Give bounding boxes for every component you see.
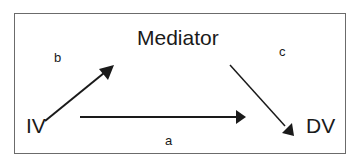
arrow-c-mediator-to-dv [230, 65, 294, 136]
arrows-layer [0, 0, 359, 165]
dv-node-label: DV [306, 115, 335, 136]
arrow-b-iv-to-mediator [45, 65, 114, 121]
iv-node-label: IV [26, 115, 46, 136]
edge-label-b: b [54, 51, 61, 64]
mediator-node-label: Mediator [137, 27, 219, 48]
arrow-a-iv-to-dv [80, 110, 246, 124]
edge-label-c: c [279, 45, 286, 58]
edge-label-a: a [165, 134, 172, 147]
